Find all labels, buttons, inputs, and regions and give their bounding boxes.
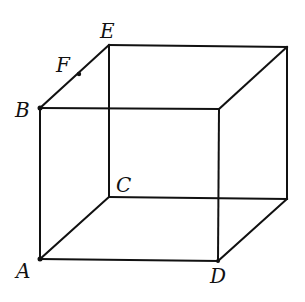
cube-diagram: E F B C A D [0, 0, 305, 302]
point-D [216, 259, 220, 263]
edge-top-right-connector [219, 47, 287, 109]
edge-E-back-top-right [109, 45, 287, 47]
edge-AD [40, 259, 218, 261]
label-C: C [116, 173, 131, 197]
point-B [38, 106, 43, 111]
edge-AC [40, 197, 109, 259]
edge-BE [40, 45, 109, 108]
edge-B-front-top-right [40, 108, 219, 109]
label-F: F [55, 53, 71, 77]
label-B: B [14, 98, 30, 122]
point-A [38, 257, 43, 262]
edge-front-top-right-D [218, 109, 219, 261]
label-A: A [14, 259, 30, 283]
edge-bottom-right-connector [218, 199, 287, 261]
label-D: D [209, 264, 226, 288]
label-E: E [99, 19, 115, 43]
edge-C-back-bottom-right [109, 197, 287, 199]
point-F [77, 72, 81, 76]
